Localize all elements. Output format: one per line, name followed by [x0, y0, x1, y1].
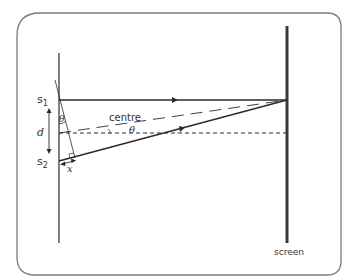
centre-line [59, 100, 287, 133]
label-screen: screen [274, 247, 304, 257]
label-theta-slit: θ [59, 114, 65, 124]
double-slit-diagram: s1 s2 d centre θ θ x screen [0, 0, 359, 278]
label-x: x [67, 163, 73, 174]
perpendicular-line [55, 80, 75, 158]
label-centre: centre [109, 112, 141, 123]
label-s1: s1 [37, 93, 48, 108]
separation-arrow-bottom [47, 149, 52, 154]
label-theta-centre: θ [129, 124, 135, 135]
diagram-frame [17, 13, 341, 275]
path-difference-arrow-left [60, 162, 66, 167]
ray-s1-arrowhead [172, 97, 178, 103]
separation-arrow-top [47, 108, 52, 113]
label-s2: s2 [37, 155, 48, 170]
ray-from-s2 [59, 100, 287, 161]
label-d: d [37, 126, 44, 139]
